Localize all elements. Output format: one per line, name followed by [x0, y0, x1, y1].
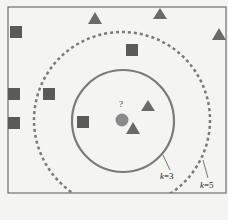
knn-diagram: ? k=3 k=5 [0, 0, 228, 220]
k3-label: k=3 [160, 171, 174, 181]
square-point [43, 88, 55, 100]
query-label: ? [119, 99, 123, 109]
k5-label: k=5 [200, 180, 214, 190]
square-point [126, 44, 138, 56]
square-point [8, 117, 20, 129]
square-point [77, 116, 89, 128]
plot-frame [8, 7, 226, 193]
square-point [8, 88, 20, 100]
square-point [10, 26, 22, 38]
query-point [116, 114, 129, 127]
